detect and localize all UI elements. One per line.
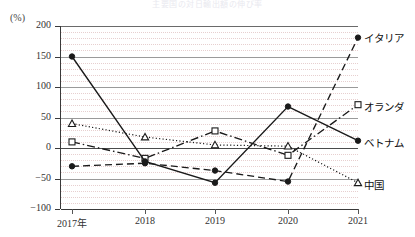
series-label-vietnam: ベトナム: [364, 135, 404, 150]
series-label-italy: イタリア: [364, 30, 404, 45]
series-label-netherlands: オランダ: [364, 99, 404, 114]
data-point-marker: [285, 179, 290, 184]
data-point-marker: [212, 128, 218, 134]
series-lines: [0, 0, 415, 237]
chart-figure: 主要国の対日輸出額の伸び率 (%) 200150100500−50−100 20…: [0, 0, 415, 237]
data-point-marker: [355, 35, 360, 40]
data-point-marker: [69, 54, 74, 59]
data-point-marker: [355, 138, 360, 143]
data-point-marker: [285, 104, 290, 109]
data-point-marker: [69, 164, 74, 169]
series-label-china: 中国: [364, 177, 384, 192]
data-point-marker: [69, 139, 75, 145]
data-point-marker: [285, 152, 291, 158]
data-point-marker: [355, 102, 361, 108]
data-point-marker: [212, 180, 217, 185]
data-point-marker: [68, 120, 75, 126]
series-path-イタリア: [72, 38, 358, 182]
data-point-marker: [354, 179, 361, 185]
data-point-marker: [212, 168, 217, 173]
data-point-marker: [142, 159, 147, 164]
series-path-ベトナム: [72, 57, 358, 183]
